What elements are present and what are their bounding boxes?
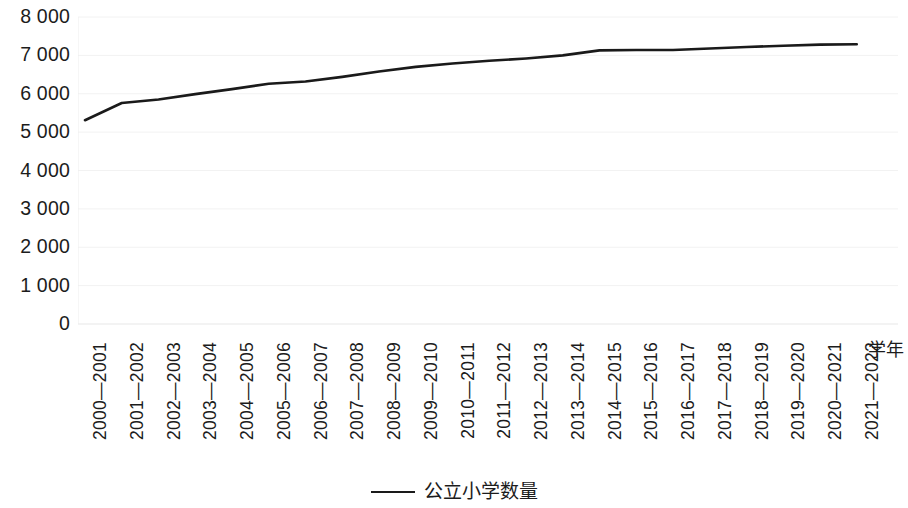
- x-axis-title: 学年: [868, 341, 904, 359]
- x-axis-tick-label: 2001—2002: [129, 342, 147, 440]
- x-axis-tick-label: 2008—2009: [386, 342, 404, 440]
- legend: 公立小学数量: [0, 482, 908, 501]
- x-axis-tick-label: 2006—2007: [313, 342, 331, 440]
- x-axis-tick-label: 2015—2016: [643, 342, 661, 440]
- x-axis-tick-label: 2019—2020: [790, 342, 808, 440]
- x-axis: 2000—20012001—20022002—20032003—20042004…: [0, 0, 908, 508]
- x-axis-tick-label: 2011—2012: [496, 342, 514, 439]
- x-axis-tick-label: 2013—2014: [570, 342, 588, 440]
- x-axis-tick-label: 2014—2015: [607, 342, 625, 440]
- x-axis-tick-label: 2000—2001: [92, 342, 110, 440]
- line-chart: 8 0007 0006 0005 0004 0003 0002 0001 000…: [0, 0, 908, 508]
- x-axis-tick-label: 2016—2017: [680, 342, 698, 440]
- x-axis-tick-label: 2010—2011: [460, 342, 478, 439]
- x-axis-tick-label: 2018—2019: [754, 342, 772, 440]
- legend-line-marker: [371, 491, 415, 493]
- x-axis-tick-label: 2002—2003: [166, 342, 184, 440]
- x-axis-tick-label: 2004—2005: [239, 342, 257, 440]
- x-axis-tick-label: 2003—2004: [202, 342, 220, 440]
- x-axis-tick-label: 2009—2010: [423, 342, 441, 440]
- legend-label: 公立小学数量: [424, 482, 538, 501]
- x-axis-tick-label: 2007—2008: [349, 342, 367, 440]
- x-axis-tick-label: 2020—2021: [827, 342, 845, 440]
- x-axis-tick-label: 2005—2006: [276, 342, 294, 440]
- x-axis-tick-label: 2017—2018: [717, 342, 735, 440]
- x-axis-tick-label: 2012—2013: [533, 342, 551, 440]
